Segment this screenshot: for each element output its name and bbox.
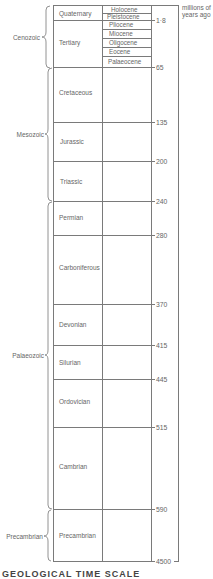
epoch-label-oligocene: Oligocene xyxy=(109,39,137,46)
epoch-label-pliocene: Pliocene xyxy=(109,21,133,28)
boundary-line-240 xyxy=(53,201,155,202)
brace-icon-precambrian xyxy=(43,509,53,562)
tick-label-135: 135 xyxy=(156,119,167,126)
boundary-line-280 xyxy=(53,235,155,236)
tick-label-515: 515 xyxy=(156,424,167,431)
tick-label-415: 415 xyxy=(156,342,167,349)
period-label-devonian: Devonian xyxy=(59,321,86,328)
bottom-right-tick xyxy=(174,561,178,562)
epoch-label-palaeocene: Palaeocene xyxy=(108,58,141,65)
diagram-heading: GEOLOGICAL TIME SCALE xyxy=(2,569,140,579)
tick-label-280: 280 xyxy=(156,232,167,239)
tick-label-240: 240 xyxy=(156,198,167,205)
boundary-line-1-8 xyxy=(53,20,155,21)
tick-label-200: 200 xyxy=(156,158,167,165)
boundary-line-415 xyxy=(53,345,155,346)
tick-label-1-8: 1·8 xyxy=(156,17,166,24)
epoch-label-eocene: Eocene xyxy=(109,48,130,55)
boundary-line-515 xyxy=(53,427,155,428)
boundary-line-370 xyxy=(53,304,155,305)
era-label-precambrian: Precambrian xyxy=(0,533,43,540)
period-label-cambrian: Cambrian xyxy=(59,463,87,470)
boundary-line-135 xyxy=(53,122,155,123)
era-label-palaeozoic: Palaeozoic xyxy=(0,352,44,359)
period-label-precambrian: Precambrian xyxy=(59,532,96,539)
brace-icon-palaeozoic xyxy=(44,201,54,510)
boundary-line-200 xyxy=(53,161,155,162)
period-label-permian: Permian xyxy=(59,214,83,221)
epoch-label-pleistocene: Pleistocene xyxy=(107,13,140,20)
period-label-triassic: Triassic xyxy=(60,178,82,185)
period-label-cretaceous: Cretaceous xyxy=(59,89,92,96)
tick-label-590: 590 xyxy=(156,506,167,513)
brace-icon-cenozoic xyxy=(40,5,52,69)
tick-label-65: 65 xyxy=(156,64,164,71)
outer-right-border xyxy=(178,5,179,562)
tick-label-445: 445 xyxy=(156,376,167,383)
period-epoch-divider xyxy=(102,5,103,561)
period-label-tertiary: Tertiary xyxy=(59,39,80,46)
boundary-line-590 xyxy=(53,509,155,510)
tick-label-4500: 4500 xyxy=(156,558,171,565)
tick-label-370: 370 xyxy=(156,301,167,308)
boundary-line-65 xyxy=(53,67,155,68)
era-label-mesozoic: Mesozoic xyxy=(0,131,44,138)
epoch-label-miocene: Miocene xyxy=(109,30,133,37)
epoch-column-right-border xyxy=(151,5,152,561)
units-label-line2: years ago xyxy=(182,11,211,18)
period-label-silurian: Silurian xyxy=(59,359,81,366)
period-label-carboniferous: Carboniferous xyxy=(59,264,100,271)
units-label-line1: millions of xyxy=(182,4,211,11)
era-label-cenozoic: Cenozoic xyxy=(0,34,40,41)
period-label-quaternary: Quaternary xyxy=(59,10,92,17)
epoch-divider xyxy=(102,56,151,57)
period-label-ordovician: Ordovician xyxy=(59,398,90,405)
brace-icon-mesozoic xyxy=(44,67,54,202)
epoch-label-holocene: Holocene xyxy=(111,6,138,13)
boundary-line-445 xyxy=(53,379,155,380)
boundary-line-4500 xyxy=(53,561,155,562)
period-label-jurassic: Jurassic xyxy=(60,138,84,145)
